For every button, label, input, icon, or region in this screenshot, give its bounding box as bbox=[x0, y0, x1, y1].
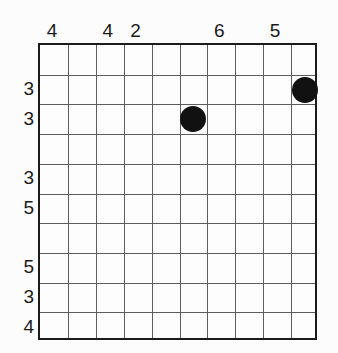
grid-line-horizontal bbox=[40, 223, 315, 224]
grid-dot-marker[interactable] bbox=[180, 106, 206, 132]
row-label: 3 bbox=[4, 287, 34, 306]
row-label: 5 bbox=[4, 198, 34, 217]
row-label: 3 bbox=[4, 168, 34, 187]
grid-dot-marker[interactable] bbox=[292, 77, 318, 103]
grid-line-vertical bbox=[124, 45, 125, 338]
row-label: 4 bbox=[4, 317, 34, 336]
grid-line-horizontal bbox=[40, 312, 315, 313]
grid-line-vertical bbox=[235, 45, 236, 338]
grid-line-horizontal bbox=[40, 253, 315, 254]
grid-line-horizontal bbox=[40, 75, 315, 76]
row-label: 3 bbox=[4, 79, 34, 98]
grid-line-vertical bbox=[152, 45, 153, 338]
column-label: 4 bbox=[38, 21, 66, 40]
column-label: 2 bbox=[122, 21, 150, 40]
grid-line-vertical bbox=[207, 45, 208, 338]
column-label: 6 bbox=[205, 21, 233, 40]
grid-line-horizontal bbox=[40, 283, 315, 284]
grid-line-horizontal bbox=[40, 164, 315, 165]
grid-border[interactable] bbox=[38, 43, 317, 340]
grid-line-vertical bbox=[180, 45, 181, 338]
column-label: 4 bbox=[94, 21, 122, 40]
row-label: 5 bbox=[4, 257, 34, 276]
grid-line-vertical bbox=[96, 45, 97, 338]
grid-line-vertical bbox=[68, 45, 69, 338]
grid-line-horizontal bbox=[40, 194, 315, 195]
grid-line-horizontal bbox=[40, 134, 315, 135]
grid-puzzle-canvas: 44265 3335534 bbox=[0, 0, 338, 353]
row-label: 3 bbox=[4, 109, 34, 128]
grid-cells bbox=[40, 45, 315, 338]
column-label: 5 bbox=[261, 21, 289, 40]
grid-line-vertical bbox=[263, 45, 264, 338]
grid-line-horizontal bbox=[40, 104, 315, 105]
